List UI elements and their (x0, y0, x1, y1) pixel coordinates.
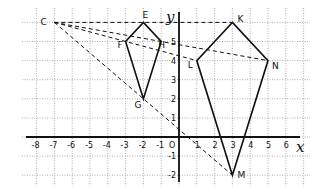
x-tick-label: -1 (156, 141, 164, 150)
point-label-K: K (237, 14, 244, 24)
coordinate-diagram: -8-7-6-5-4-3-2-1123456-2-112345Oxy CEFGH… (0, 0, 326, 193)
point-label-F: F (118, 40, 123, 50)
x-tick-label: -6 (67, 141, 75, 150)
x-tick-label: -7 (49, 141, 57, 150)
x-tick-label: -3 (121, 141, 129, 150)
x-tick-label: -4 (103, 141, 111, 150)
x-tick-label: 1 (195, 141, 200, 150)
x-tick-label: 2 (213, 141, 218, 150)
y-tick-label: 4 (171, 57, 176, 66)
x-tick-label: 3 (230, 141, 235, 150)
y-tick-label: 1 (171, 114, 176, 123)
y-tick-label: 3 (171, 76, 176, 85)
x-tick-label: -2 (138, 141, 146, 150)
point-label-N: N (272, 61, 279, 71)
x-tick-label: 5 (266, 141, 271, 150)
y-tick-label: 2 (171, 95, 176, 104)
point-labels: CEFGHKLMN (40, 10, 278, 180)
point-label-C: C (40, 17, 46, 27)
x-tick-label: -8 (32, 141, 40, 150)
point-label-E: E (142, 10, 148, 20)
x-axis-label: x (296, 138, 305, 156)
y-tick-label: -2 (168, 171, 176, 180)
y-tick-label: 5 (171, 38, 176, 47)
y-tick-label: -1 (168, 152, 176, 161)
point-label-H: H (158, 40, 165, 50)
x-tick-label: -5 (85, 141, 93, 150)
x-tick-label: 6 (284, 141, 289, 150)
x-tick-label: 4 (248, 141, 253, 150)
grid-lines (22, 8, 310, 186)
origin-label: O (169, 141, 175, 150)
point-label-G: G (134, 100, 141, 110)
point-label-L: L (188, 60, 193, 70)
y-axis-label: y (165, 8, 175, 26)
point-label-M: M (237, 170, 245, 180)
